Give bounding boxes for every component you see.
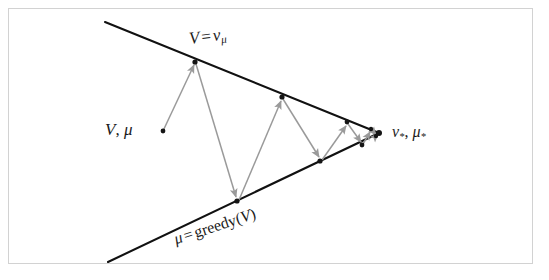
iterate-dots <box>161 59 382 203</box>
arrow-segment-6 <box>348 124 361 142</box>
gpi-convergence-figure: V=vμ μ=greedy(V) V, μ v*, μ* <box>0 0 549 280</box>
lower-boundary-line <box>108 133 379 262</box>
convergence-point-label: v*, μ* <box>392 124 426 143</box>
start-point-label: V, μ <box>105 121 132 138</box>
iterate-dot <box>345 120 350 125</box>
arrow-segment-1 <box>163 65 194 131</box>
apex-dot <box>376 130 382 136</box>
figure-canvas <box>0 0 549 280</box>
iterate-dot <box>192 59 197 64</box>
start-point-label-comma: , <box>115 120 119 139</box>
start-point-label-policy: μ <box>124 120 133 139</box>
convergence-label-comma: , <box>404 123 408 140</box>
arrow-segment-4 <box>283 99 319 157</box>
iterate-dot <box>279 94 284 99</box>
iterate-dot <box>317 158 322 163</box>
zigzag-arrow-path <box>163 64 378 200</box>
convergence-label-policy-subscript: * <box>420 131 425 142</box>
arrow-segment-2 <box>196 64 236 197</box>
upper-boundary-line <box>105 22 379 133</box>
iterate-dot <box>360 143 365 148</box>
start-point-label-value: V <box>105 120 115 139</box>
iterate-dot <box>234 198 239 203</box>
iterate-dot <box>369 127 373 131</box>
arrow-segment-3 <box>239 101 281 200</box>
start-dot <box>161 129 166 134</box>
